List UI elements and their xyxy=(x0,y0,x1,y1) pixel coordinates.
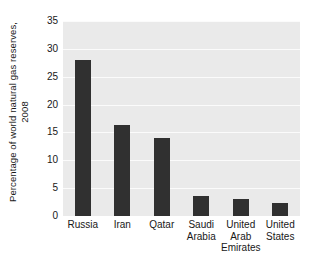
gridline xyxy=(63,188,300,189)
y-tick-label: 20 xyxy=(32,100,58,110)
plot-area xyxy=(63,21,300,216)
y-tick-label: 0 xyxy=(32,211,58,221)
x-tick-label: UnitedStates xyxy=(253,219,307,242)
gridline xyxy=(63,21,300,22)
y-tick-label: 30 xyxy=(32,44,58,54)
bar xyxy=(272,203,288,216)
gridline xyxy=(63,49,300,50)
y-axis-title-line-1: Percentage of world natural gas reserves… xyxy=(7,22,18,202)
x-axis-tick-labels: RussiaIranQatarSaudiArabiaUnitedArabEmir… xyxy=(63,219,300,275)
y-axis-title-line-2: 2008 xyxy=(19,22,31,202)
bar xyxy=(193,196,209,216)
bar xyxy=(75,60,91,216)
y-tick-label: 35 xyxy=(32,16,58,26)
gridline xyxy=(63,160,300,161)
y-tick-label: 25 xyxy=(32,72,58,82)
bar xyxy=(154,138,170,216)
y-tick-label: 5 xyxy=(32,183,58,193)
y-axis-tick-labels: 05101520253035 xyxy=(32,14,58,222)
gridline xyxy=(63,105,300,106)
gridline xyxy=(63,77,300,78)
y-tick-label: 10 xyxy=(32,155,58,165)
bar xyxy=(233,199,249,216)
x-tick-label-line: Emirates xyxy=(214,242,268,254)
y-tick-label: 15 xyxy=(32,127,58,137)
bar-chart-figure: Percentage of world natural gas reserves… xyxy=(0,0,316,276)
bar xyxy=(114,125,130,216)
y-axis-title: Percentage of world natural gas reserves… xyxy=(2,0,36,224)
x-tick-label-line: States xyxy=(253,231,307,243)
x-tick-label-line: United xyxy=(253,219,307,231)
gridline xyxy=(63,132,300,133)
